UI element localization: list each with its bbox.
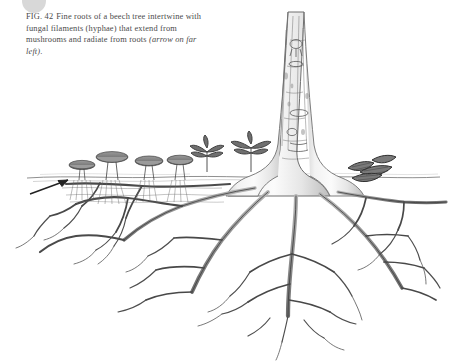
mushroom — [135, 156, 163, 180]
root-system — [16, 183, 446, 360]
figure-page: FIG. 42Fine roots of a beech tree intert… — [0, 0, 449, 361]
mushroom — [96, 152, 128, 180]
sapling-seedlings — [190, 131, 271, 172]
figure-illustration — [0, 0, 449, 361]
pointer-arrow — [30, 180, 68, 194]
beech-trunk — [226, 12, 364, 196]
